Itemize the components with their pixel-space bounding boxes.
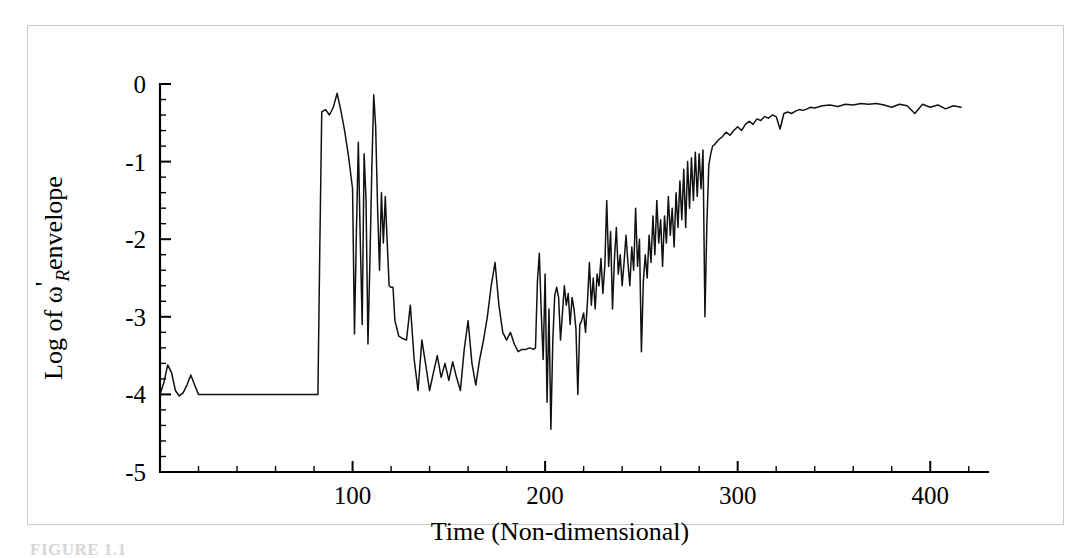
ticks-group xyxy=(160,84,969,472)
figure-caption-partial: FIGURE 1.1 xyxy=(30,540,350,556)
y-tick-label: -3 xyxy=(125,304,146,331)
y-tick-label: -1 xyxy=(125,149,146,176)
y-tick-label: -5 xyxy=(125,459,146,486)
chart-plot: 0-1-2-3-4-5100200300400 Time (Non-dimens… xyxy=(0,0,1073,558)
x-tick-label: 200 xyxy=(526,482,564,509)
y-tick-label: 0 xyxy=(134,71,147,98)
figure-root: 0-1-2-3-4-5100200300400 Time (Non-dimens… xyxy=(0,0,1073,558)
y-axis-title-prefix: Log of xyxy=(39,303,68,380)
y-axis-title-suffix: envelope xyxy=(39,176,68,270)
svg-text:Log of ω'Renvelope: Log of ω'Renvelope xyxy=(30,176,73,380)
y-tick-label: -4 xyxy=(125,381,146,408)
x-tick-label: 300 xyxy=(719,482,757,509)
y-axis-title: Log of ω'Renvelope xyxy=(30,176,73,380)
axes-group xyxy=(160,84,988,472)
y-axis-title-subscript-R: R xyxy=(52,270,73,283)
data-series-line xyxy=(160,93,961,429)
y-axis-title-omega-symbol: ω xyxy=(39,286,68,303)
x-tick-label: 100 xyxy=(334,482,372,509)
y-tick-label: -2 xyxy=(125,226,146,253)
x-axis-title: Time (Non-dimensional) xyxy=(431,517,689,546)
axis-spines xyxy=(160,84,988,472)
x-tick-label: 400 xyxy=(911,482,949,509)
